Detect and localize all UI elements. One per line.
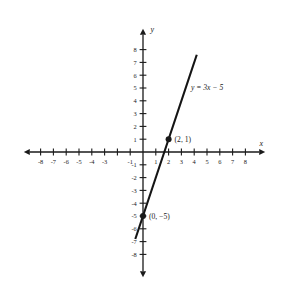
x-axis-tick-label: -7 xyxy=(51,158,57,165)
y-axis-tick-label: -7 xyxy=(131,238,137,245)
y-axis-tick-label: 6 xyxy=(134,72,137,79)
y-axis-tick-label: -6 xyxy=(131,225,136,232)
point-label: (2, 1) xyxy=(175,135,192,144)
plotted-point xyxy=(166,136,172,142)
y-axis-tick-label: 8 xyxy=(134,46,137,53)
y-axis-tick-label: 4 xyxy=(134,97,138,104)
y-axis-tick-label: -8 xyxy=(131,251,136,258)
y-axis-tick-label: -1 xyxy=(131,161,136,168)
y-axis-tick-label: -4 xyxy=(131,200,137,207)
x-axis-tick-label: 2 xyxy=(167,158,170,165)
y-axis-tick-label: 1 xyxy=(134,136,137,143)
x-axis-arrow-right xyxy=(259,149,265,155)
x-axis-tick-label: -5 xyxy=(76,158,81,165)
x-axis-arrow-left xyxy=(24,149,30,155)
x-axis-tick-label: -6 xyxy=(64,158,69,165)
plotted-point xyxy=(140,213,146,219)
x-axis-tick-label: 5 xyxy=(205,158,208,165)
coordinate-plane: -8-7-6-5-4-3-112345678-8-7-6-5-4-3-2-112… xyxy=(0,0,286,305)
y-axis-tick-label: 5 xyxy=(134,84,137,91)
x-axis-tick-label: -4 xyxy=(89,158,95,165)
x-axis-tick-label: 8 xyxy=(244,158,247,165)
equation-label: y = 3x − 5 xyxy=(190,83,223,92)
y-axis-arrow-down xyxy=(140,271,146,277)
x-axis-tick-label: 3 xyxy=(180,158,183,165)
x-axis-tick-label: -3 xyxy=(102,158,107,165)
y-axis-name: y xyxy=(150,25,155,34)
annotation-layer: y = 3x − 5xy xyxy=(150,25,264,148)
y-axis-tick-label: -2 xyxy=(131,174,136,181)
graph-figure: -8-7-6-5-4-3-112345678-8-7-6-5-4-3-2-112… xyxy=(0,0,286,305)
x-axis-name: x xyxy=(258,139,263,148)
x-axis-tick-label: 6 xyxy=(218,158,221,165)
y-axis-tick-label: -5 xyxy=(131,212,136,219)
y-axis-tick-label: -3 xyxy=(131,187,136,194)
x-axis-tick-label: 1 xyxy=(154,158,157,165)
x-axis-tick-label: -8 xyxy=(38,158,43,165)
point-label: (0, −5) xyxy=(149,212,170,221)
y-axis-arrow-up xyxy=(140,29,146,35)
y-axis-tick-label: 7 xyxy=(134,59,138,66)
x-axis-tick-label: 4 xyxy=(193,158,197,165)
y-axis-tick-label: 3 xyxy=(134,110,137,117)
x-axis-tick-label: 7 xyxy=(231,158,235,165)
y-axis-tick-label: 2 xyxy=(134,123,137,130)
axis-layer xyxy=(24,29,265,277)
